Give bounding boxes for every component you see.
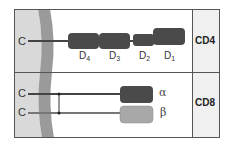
cd4-domain-d1 — [153, 28, 185, 45]
cd4-domain-d2 — [133, 34, 154, 46]
cd4-domain-d4 — [68, 33, 99, 49]
cd4-c-terminus-label: C — [18, 36, 26, 47]
beta-chain-label: β — [160, 107, 166, 118]
d1-label: D1 — [164, 51, 175, 62]
alpha-chain-label: α — [159, 87, 166, 98]
label-column — [192, 9, 220, 138]
bond-dot-top — [58, 93, 61, 96]
bond-dot-bottom — [58, 112, 61, 115]
cd4-row-label: CD4 — [195, 36, 215, 46]
cd8-beta-domain — [120, 106, 153, 123]
d3-label: D3 — [109, 51, 120, 62]
diagram-canvas — [0, 0, 234, 144]
cd8-alpha-c-terminus-label: C — [18, 88, 26, 99]
d2-label: D2 — [139, 51, 150, 62]
cd4-domain-d3 — [99, 33, 130, 49]
cd8-alpha-domain — [120, 86, 153, 103]
d4-label: D4 — [79, 51, 90, 62]
cd8-beta-c-terminus-label: C — [18, 107, 26, 118]
membrane-outer-layer — [14, 9, 42, 138]
cd8-row-label: CD8 — [195, 98, 215, 108]
